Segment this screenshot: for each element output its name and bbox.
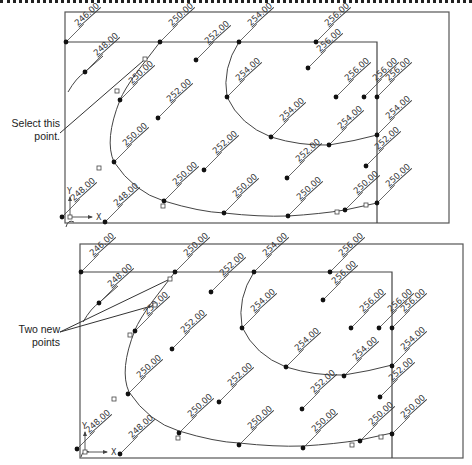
elevation-label: 254.00 [277, 95, 306, 122]
survey-point[interactable] [112, 160, 117, 165]
survey-point[interactable] [327, 143, 332, 148]
survey-point[interactable] [75, 447, 80, 452]
survey-point[interactable] [225, 95, 230, 100]
survey-point[interactable] [286, 214, 291, 219]
elevation-label: 250.00 [170, 159, 199, 186]
survey-point[interactable] [362, 95, 367, 100]
survey-point[interactable] [202, 168, 207, 173]
survey-point[interactable] [237, 443, 242, 448]
survey-point[interactable] [83, 70, 88, 75]
grip-square[interactable] [112, 397, 116, 401]
callout-leader [60, 61, 143, 133]
survey-point[interactable] [334, 95, 339, 100]
grip-square[interactable] [161, 204, 165, 208]
grip-square[interactable] [176, 436, 180, 440]
elevation-leader [158, 100, 176, 118]
survey-point[interactable] [126, 392, 131, 397]
survey-point[interactable] [364, 164, 369, 169]
elevation-label: 254.00 [335, 103, 364, 130]
elevation-leader [227, 79, 245, 97]
survey-point[interactable] [321, 298, 326, 303]
survey-point[interactable] [156, 116, 161, 121]
survey-point[interactable] [377, 326, 382, 331]
elevation-label: 254.00 [233, 55, 262, 82]
elevation-label: 256.00 [314, 26, 343, 53]
survey-point[interactable] [79, 270, 84, 275]
survey-point[interactable] [222, 211, 227, 216]
survey-point[interactable] [103, 220, 108, 225]
elevation-leader [392, 310, 410, 328]
survey-point[interactable] [358, 439, 363, 444]
ucs-x-arrow-icon [103, 450, 108, 454]
survey-point[interactable] [97, 301, 102, 306]
elevation-label: 256.00 [357, 286, 386, 313]
elevation-label: 248.00 [68, 175, 97, 202]
survey-point[interactable] [209, 290, 214, 295]
survey-point[interactable] [60, 215, 65, 220]
survey-point[interactable] [158, 40, 163, 45]
elevation-label: 252.00 [178, 307, 207, 334]
survey-point[interactable] [328, 270, 333, 275]
survey-point[interactable] [252, 270, 257, 275]
ucs-origin-square [83, 450, 87, 454]
grip-square[interactable] [335, 210, 339, 214]
elevation-leader [288, 198, 306, 216]
contour-line [66, 221, 74, 227]
survey-point[interactable] [390, 326, 395, 331]
survey-point[interactable] [306, 66, 311, 71]
ucs-x-arrow-icon [88, 215, 93, 219]
survey-point[interactable] [342, 374, 347, 379]
survey-point[interactable] [285, 176, 290, 181]
contour-line [241, 272, 392, 375]
survey-point[interactable] [378, 395, 383, 400]
grip-square[interactable] [128, 333, 132, 337]
elevation-leader [302, 391, 320, 409]
survey-point[interactable] [390, 432, 395, 437]
grip-square[interactable] [143, 57, 147, 61]
elevation-leader [85, 54, 103, 72]
elevation-leader [219, 384, 237, 402]
grip-square[interactable] [168, 277, 172, 281]
grip-square[interactable] [379, 435, 383, 439]
elevation-label: 248.00 [111, 180, 140, 207]
elevation-label: 250.00 [366, 399, 395, 426]
elevation-leader [254, 254, 272, 272]
grip-square[interactable] [350, 443, 354, 447]
grip-square[interactable] [97, 166, 101, 170]
survey-point[interactable] [177, 431, 182, 436]
elevation-label: 250.00 [294, 174, 323, 201]
survey-point[interactable] [375, 201, 380, 206]
survey-point[interactable] [173, 270, 178, 275]
survey-point[interactable] [349, 326, 354, 331]
survey-point[interactable] [118, 452, 123, 457]
elevation-label: 248.00 [105, 261, 134, 288]
survey-point[interactable] [118, 98, 123, 103]
survey-point[interactable] [237, 40, 242, 45]
elevation-leader [164, 183, 182, 201]
grip-square[interactable] [153, 303, 157, 307]
survey-point[interactable] [343, 208, 348, 213]
survey-point[interactable] [217, 400, 222, 405]
elevation-leader [204, 152, 222, 170]
elevation-leader [377, 185, 395, 203]
survey-point[interactable] [170, 347, 175, 352]
survey-point[interactable] [133, 329, 138, 334]
grip-square[interactable] [364, 203, 368, 207]
survey-point[interactable] [375, 133, 380, 138]
survey-point[interactable] [194, 58, 199, 63]
elevation-leader [323, 282, 341, 300]
survey-point[interactable] [375, 95, 380, 100]
callout-two-new-points: Two new points [14, 323, 60, 349]
survey-point[interactable] [300, 407, 305, 412]
survey-point[interactable] [162, 199, 167, 204]
elevation-leader [351, 310, 369, 328]
survey-point[interactable] [64, 40, 69, 45]
callout-select-point: Select this point. [8, 117, 60, 143]
survey-point[interactable] [301, 446, 306, 451]
survey-point[interactable] [240, 326, 245, 331]
survey-point[interactable] [284, 365, 289, 370]
elevation-label: 252.00 [225, 360, 254, 387]
survey-point[interactable] [269, 135, 274, 140]
ucs-origin-square [68, 215, 72, 219]
grip-square[interactable] [115, 89, 119, 93]
